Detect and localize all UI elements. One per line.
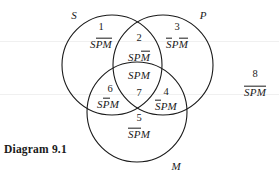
region-3-number: 3 xyxy=(174,22,179,33)
region-3-part-2: M xyxy=(179,38,188,51)
region-6-part-2: M xyxy=(110,99,119,111)
region-5-number: 5 xyxy=(136,113,141,124)
region-8-number: 8 xyxy=(252,69,257,80)
region-2-part-1: M xyxy=(141,51,150,64)
region-2-part-0: SP xyxy=(128,52,141,64)
venn-diagram-stage: S P M 1 SPM 2 SPM 3 SPM SPM 7 6 SPM 4 SP… xyxy=(0,0,279,177)
circle-label-m: M xyxy=(171,161,180,172)
region-2-expression: SPM xyxy=(128,51,150,64)
region-7-number: 7 xyxy=(136,88,141,99)
circle-label-s: S xyxy=(71,10,77,21)
region-6-expression: SPM xyxy=(97,98,119,111)
region-5-part-1: M xyxy=(141,129,150,141)
region-1-part-1: PM xyxy=(96,38,112,51)
region-6-number: 6 xyxy=(107,84,112,95)
region-4-expression: SPM xyxy=(155,100,177,113)
region-1-number: 1 xyxy=(98,22,103,33)
region-6-part-1: P xyxy=(103,98,110,111)
region-2-number: 2 xyxy=(136,33,141,44)
region-7-expression: SPM xyxy=(128,70,150,82)
circle-label-p: P xyxy=(200,10,207,21)
region-5-expression: SPM xyxy=(128,128,150,141)
region-3-expression: SPM xyxy=(166,38,188,51)
region-1-expression: SPM xyxy=(90,38,112,51)
region-5-part-0: SP xyxy=(128,128,141,141)
region-8-expression: SPM xyxy=(244,86,266,99)
region-8-part-0: SPM xyxy=(244,86,266,99)
region-3-part-1: P xyxy=(172,39,179,51)
diagram-caption: Diagram 9.1 xyxy=(4,143,67,155)
region-4-number: 4 xyxy=(163,87,168,98)
region-7-part-0: SPM xyxy=(128,70,150,82)
region-4-part-1: PM xyxy=(161,101,177,113)
